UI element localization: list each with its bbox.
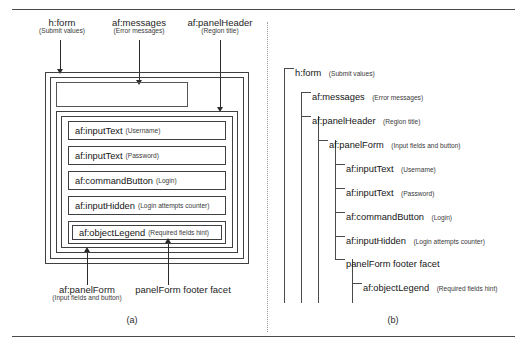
callout-label-h-form: h:form (Submit values) — [22, 18, 102, 35]
row-0-note: (Username) — [126, 127, 161, 134]
callout-h-form-sub: (Submit values) — [22, 28, 102, 35]
tree-elbow-2 — [301, 116, 311, 117]
tree-trunk-depth-2 — [318, 116, 319, 303]
tree-node-8-tag: panelForm footer facet — [346, 259, 440, 269]
tree-node-5-note: (Password) — [401, 190, 434, 197]
tree-trunk-depth-1 — [301, 92, 302, 303]
row-af-inputtext-username: af:inputText (Username) — [68, 121, 226, 140]
tree-elbow-1 — [301, 92, 311, 93]
tree-node-0-tag: h:form — [295, 68, 321, 78]
row-af-commandbutton-login: af:commandButton (Login) — [68, 171, 226, 190]
panel-a-caption: (a) — [112, 315, 152, 325]
tree-node-af-commandbutton-login: af:commandButton (Login) — [346, 206, 452, 224]
tree-node-af-objectlegend: af:objectLegend (Required fields hint) — [363, 277, 497, 295]
tree-node-af-panelheader: af:panelHeader (Region title) — [312, 110, 420, 128]
row-2-note: (Login) — [156, 177, 177, 184]
tree-diagram: h:form (Submit values) af:messages (Erro… — [284, 62, 524, 302]
callout-af-messages-sub: (Error messages) — [97, 28, 181, 35]
panel-divider — [267, 22, 268, 332]
row-af-inputtext-password: af:inputText (Password) — [68, 146, 226, 165]
tree-node-7-tag: af:inputHidden — [346, 236, 406, 246]
tree-elbow-8 — [335, 259, 345, 260]
top-rule — [12, 9, 515, 10]
row-af-inputhidden: af:inputHidden (Login attempts counter) — [68, 196, 226, 215]
figure-canvas: h:form (Submit values) af:messages (Erro… — [0, 0, 527, 347]
tree-node-6-note: (Login) — [432, 214, 453, 221]
tree-elbow-7 — [335, 236, 345, 237]
tree-trunk-depth-3 — [335, 140, 336, 259]
tree-node-9-tag: af:objectLegend — [363, 283, 429, 293]
tree-node-6-tag: af:commandButton — [346, 212, 424, 222]
row-2-tag: af:commandButton — [75, 176, 153, 186]
tree-node-af-messages: af:messages (Error messages) — [312, 86, 423, 104]
tree-node-7-note: (Login attempts counter) — [413, 238, 484, 245]
tree-node-2-note: (Region title) — [383, 118, 420, 125]
row-4-note: (Required fields hint) — [148, 229, 209, 236]
tree-node-1-note: (Error messages) — [372, 94, 423, 101]
callout-label-af-panelheader: af:panelHeader (Region title) — [174, 18, 266, 35]
row-3-tag: af:inputHidden — [75, 201, 135, 211]
tree-trunk-depth-0 — [284, 68, 285, 303]
tree-node-4-tag: af:inputText — [346, 164, 394, 174]
tree-node-footer-facet: panelForm footer facet — [346, 253, 443, 271]
tree-node-5-tag: af:inputText — [346, 188, 394, 198]
tree-node-2-tag: af:panelHeader — [312, 116, 376, 126]
tree-node-h-form: h:form (Submit values) — [295, 62, 375, 80]
row-3-note: (Login attempts counter) — [138, 202, 209, 209]
tree-node-af-panelform: af:panelForm (Input fields and button) — [329, 134, 461, 152]
tree-node-0-note: (Submit values) — [329, 70, 375, 77]
row-4-tag: af:objectLegend — [79, 228, 145, 238]
callout-label-af-panelform: af:panelForm (Input fields and button) — [47, 285, 127, 302]
row-1-tag: af:inputText — [75, 151, 123, 161]
tree-node-9-note: (Required fields hint) — [437, 285, 498, 292]
callout-label-af-messages: af:messages (Error messages) — [97, 18, 181, 35]
tree-elbow-4 — [335, 164, 345, 165]
callout-footer-facet-title: panelForm footer facet — [129, 285, 237, 295]
tree-node-3-note: (Input fields and button) — [391, 142, 460, 149]
tree-node-af-inputtext-password: af:inputText (Password) — [346, 182, 434, 200]
row-0-tag: af:inputText — [75, 126, 123, 136]
row-af-objectlegend: af:objectLegend (Required fields hint) — [72, 225, 222, 240]
tree-node-af-inputtext-username: af:inputText (Username) — [346, 158, 436, 176]
bottom-rule — [12, 336, 515, 337]
tree-node-4-note: (Username) — [401, 166, 436, 173]
tree-elbow-0 — [284, 68, 294, 69]
tree-elbow-6 — [335, 212, 345, 213]
tree-elbow-9 — [352, 283, 362, 284]
tree-node-3-tag: af:panelForm — [329, 140, 384, 150]
tree-node-af-inputhidden: af:inputHidden (Login attempts counter) — [346, 230, 485, 248]
callout-af-panelform-sub: (Input fields and button) — [47, 295, 127, 302]
tree-elbow-3 — [318, 140, 328, 141]
callout-label-footer-facet: panelForm footer facet — [129, 285, 237, 295]
tree-elbow-5 — [335, 188, 345, 189]
box-af-messages — [56, 82, 188, 107]
panel-b-caption: (b) — [373, 315, 413, 325]
row-1-note: (Password) — [126, 152, 159, 159]
tree-node-1-tag: af:messages — [312, 92, 365, 102]
callout-af-panelheader-sub: (Region title) — [174, 28, 266, 35]
